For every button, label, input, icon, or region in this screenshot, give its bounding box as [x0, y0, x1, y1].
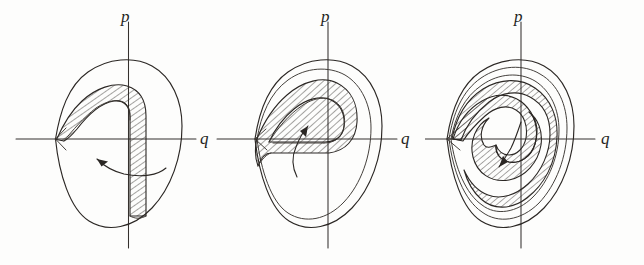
panel-1-svg: p q [0, 0, 215, 265]
p-axis-label: p [320, 7, 330, 26]
p-axis-label: p [120, 7, 130, 26]
figure-root: p q p [0, 0, 644, 265]
hatched-band-group [452, 81, 557, 208]
panel-once-wound-band: p q [211, 0, 426, 265]
q-axis-label: q [601, 129, 610, 148]
panel-3-svg: p q [425, 0, 644, 265]
q-axis-label: q [200, 129, 209, 148]
panel-initial-band: p q [0, 0, 215, 265]
panel-twice-wound-band: p q [425, 0, 640, 265]
axes-group-3 [425, 22, 595, 248]
panel-2-svg: p q [211, 0, 426, 265]
axes-group-1 [16, 22, 196, 248]
q-axis-label: q [401, 129, 410, 148]
p-axis-label: p [513, 7, 523, 26]
